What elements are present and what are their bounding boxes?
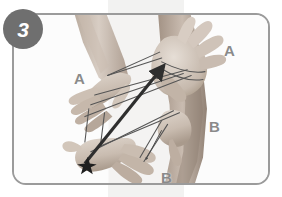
illustration-canvas: A A B B [14, 15, 268, 183]
label-a-upper-left: A [74, 71, 85, 86]
illustration-stage: A A B B 3 [0, 0, 282, 197]
step-number-badge: 3 [3, 9, 43, 49]
label-b-middle-right: B [209, 119, 220, 134]
label-b-lower: B [161, 170, 172, 185]
label-a-upper-right: A [224, 43, 235, 58]
hands-string-figure-illustration [14, 15, 268, 183]
illustration-frame: A A B B [12, 13, 270, 185]
